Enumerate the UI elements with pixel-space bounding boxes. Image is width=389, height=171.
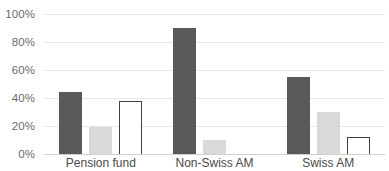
- x-category-label-non-swiss-am: Non-Swiss AM: [158, 155, 272, 171]
- y-tick-label-0: 0%: [18, 148, 35, 160]
- bar-group-non-swiss-am: [158, 14, 272, 154]
- bar-swiss-am-series-2: [317, 112, 340, 154]
- y-axis-labels: 100% 80% 60% 40% 20% 0%: [0, 0, 40, 171]
- bar-group-swiss-am: [271, 14, 385, 154]
- x-axis-labels: Pension fund Non-Swiss AM Swiss AM: [44, 155, 385, 171]
- bar-swiss-am-series-1: [287, 77, 310, 154]
- x-category-label-pension-fund: Pension fund: [44, 155, 158, 171]
- y-tick-label-40: 40%: [12, 92, 35, 104]
- y-tick-label-60: 60%: [12, 64, 35, 76]
- bar-pension-fund-series-3: [119, 101, 142, 154]
- bar-chart: 100% 80% 60% 40% 20% 0%: [0, 0, 389, 171]
- bar-non-swiss-am-series-2: [203, 140, 226, 154]
- bar-swiss-am-series-3: [347, 137, 370, 154]
- y-tick-label-20: 20%: [12, 120, 35, 132]
- plot-area: [44, 14, 385, 154]
- bar-group-pension-fund: [44, 14, 158, 154]
- x-category-label-swiss-am: Swiss AM: [271, 155, 385, 171]
- y-tick-label-100: 100%: [5, 8, 35, 20]
- y-tick-label-80: 80%: [12, 36, 35, 48]
- bar-pension-fund-series-2: [89, 127, 112, 154]
- bar-non-swiss-am-series-1: [173, 28, 196, 154]
- bar-groups: [44, 14, 385, 154]
- bar-pension-fund-series-1: [59, 92, 82, 154]
